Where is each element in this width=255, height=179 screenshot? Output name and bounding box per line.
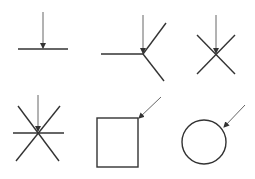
- figure-circle-edge: [182, 105, 245, 164]
- figure-six-way-star: [13, 95, 64, 161]
- figure-line-end-point: [18, 12, 68, 49]
- segment-line: [143, 54, 164, 81]
- diagram-canvas: [0, 0, 255, 179]
- pointer-arrow-icon: [224, 105, 245, 127]
- figure-x-crossing: [197, 15, 235, 74]
- figures-group: [13, 12, 245, 167]
- square-shape: [97, 118, 138, 167]
- figure-three-way-junction: [101, 15, 166, 81]
- circle-shape: [182, 120, 226, 164]
- figure-square-corner: [97, 97, 161, 167]
- segment-line: [143, 23, 166, 54]
- pointer-arrow-icon: [139, 97, 161, 118]
